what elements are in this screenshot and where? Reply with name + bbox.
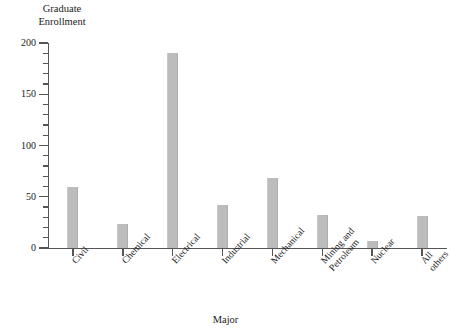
y-axis-tick-label: 150	[2, 89, 36, 99]
plot-area	[48, 43, 447, 248]
y-axis-tick-label: 200	[2, 38, 36, 48]
bar	[367, 241, 378, 248]
bar	[67, 187, 78, 249]
bar-slot	[67, 43, 78, 248]
bar	[167, 53, 178, 248]
x-axis-title: Major	[0, 314, 451, 325]
y-axis-major-tick	[39, 247, 48, 248]
bar	[267, 178, 278, 248]
bar-slot	[417, 43, 428, 248]
y-axis-major-tick	[39, 145, 48, 146]
bar-slot	[267, 43, 278, 248]
bar-slot	[217, 43, 228, 248]
bar-slot	[317, 43, 328, 248]
y-axis-major-tick	[39, 42, 48, 43]
bar-chart: Graduate Enrollment 050100150200 CivilCh…	[0, 0, 451, 330]
y-axis-title: Graduate Enrollment	[22, 3, 102, 28]
bar-slot	[367, 43, 378, 248]
y-axis-tick-label: 100	[2, 141, 36, 151]
bar	[417, 216, 428, 248]
bar	[317, 215, 328, 248]
bar	[117, 224, 128, 248]
bar	[217, 205, 228, 248]
y-axis-major-tick	[39, 94, 48, 95]
y-axis-major-tick	[39, 196, 48, 197]
y-axis-tick-label: 50	[2, 192, 36, 202]
bar-slot	[117, 43, 128, 248]
bar-slot	[167, 43, 178, 248]
y-axis-tick-label: 0	[2, 243, 36, 253]
